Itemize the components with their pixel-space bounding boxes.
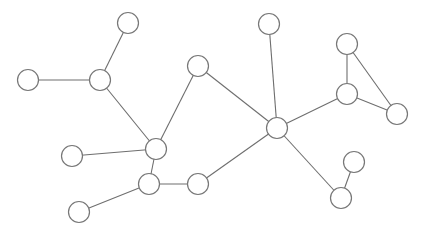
graph-node-K (139, 174, 160, 195)
graph-node-C (18, 70, 39, 91)
edge-B-J (100, 80, 156, 149)
edge-K-N (79, 184, 149, 212)
graph-node-B (90, 70, 111, 91)
edge-I-G (277, 94, 347, 128)
graph-node-A (118, 13, 139, 34)
graph-node-P (331, 188, 352, 209)
graph-node-L (62, 146, 83, 167)
graph-node-F (337, 34, 358, 55)
graph-node-H (387, 104, 408, 125)
graph-node-G (337, 84, 358, 105)
edge-I-P (277, 128, 341, 198)
graph-node-D (188, 56, 209, 77)
edge-D-I (198, 66, 277, 128)
nodes-layer (18, 13, 408, 223)
edge-L-J (72, 149, 156, 156)
edge-M-I (198, 128, 277, 184)
network-graph (0, 0, 424, 237)
graph-node-M (188, 174, 209, 195)
edge-E-I (269, 24, 277, 128)
graph-node-I (267, 118, 288, 139)
graph-node-N (69, 202, 90, 223)
edge-D-J (156, 66, 198, 149)
graph-node-E (259, 14, 280, 35)
graph-node-O (344, 152, 365, 173)
graph-node-J (146, 139, 167, 160)
